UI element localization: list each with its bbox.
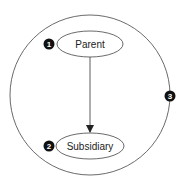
badge-1-number: 1 [47,40,52,49]
badge-2-number: 2 [47,142,52,151]
node-subsidiary[interactable]: Subsidiary [56,133,124,159]
diagram-canvas: Parent Subsidiary 1 2 3 [0,0,186,186]
subsidiary-label: Subsidiary [67,141,114,152]
badge-1: 1 [44,39,55,50]
parent-label: Parent [75,39,105,50]
badge-3: 3 [165,91,176,102]
badge-2: 2 [44,141,55,152]
node-parent[interactable]: Parent [57,31,123,57]
badge-3-number: 3 [168,92,173,101]
